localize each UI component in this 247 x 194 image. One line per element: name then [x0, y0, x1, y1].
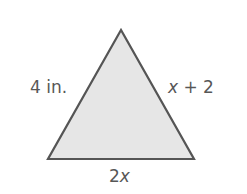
right-side-label: x + 2 — [168, 79, 214, 96]
triangle-shape — [0, 0, 247, 194]
right-side-constant: + 2 — [178, 77, 214, 97]
base-variable: x — [120, 166, 130, 186]
base-coefficient: 2 — [109, 166, 120, 186]
left-side-label: 4 in. — [30, 79, 67, 96]
left-side-value: 4 — [30, 77, 41, 97]
left-side-unit: in. — [41, 77, 67, 97]
triangle-diagram: 4 in. x + 2 2x — [0, 0, 247, 194]
right-side-variable: x — [168, 77, 178, 97]
base-label: 2x — [109, 168, 130, 185]
